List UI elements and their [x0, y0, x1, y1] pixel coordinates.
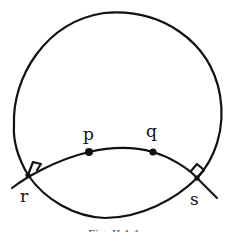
lower-arc — [28, 175, 197, 218]
point-q — [149, 148, 156, 155]
point-s — [194, 175, 199, 180]
label-s: s — [190, 189, 199, 209]
figure-caption: Fig. II.1.1 — [88, 226, 140, 232]
label-q: q — [146, 121, 157, 141]
outer-circle — [14, 12, 222, 178]
label-r: r — [20, 186, 29, 206]
upper-arc — [12, 148, 217, 198]
point-r — [25, 172, 30, 177]
label-p: p — [83, 124, 94, 144]
geometry-diagram: p q r s Fig. II.1.1 — [0, 0, 236, 232]
point-p — [85, 148, 93, 156]
